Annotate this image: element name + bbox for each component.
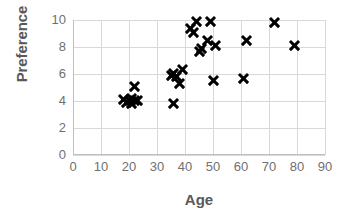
data-point-marker (187, 26, 200, 39)
gridline-horizontal (73, 47, 325, 48)
x-tick-label: 50 (198, 160, 228, 173)
x-tick-label: 90 (310, 160, 340, 173)
data-point-marker (209, 39, 222, 52)
gridline-horizontal (73, 155, 325, 156)
x-tick-label: 10 (86, 160, 116, 173)
data-point-marker (268, 16, 281, 29)
data-point-marker (173, 77, 186, 90)
data-point-marker (240, 34, 253, 47)
data-point-marker (167, 97, 180, 110)
gridline-horizontal (73, 101, 325, 102)
data-point-marker (201, 34, 214, 47)
data-point-marker (125, 92, 138, 105)
x-axis-title: Age (73, 191, 325, 208)
gridline-vertical (129, 20, 130, 155)
gridline-vertical (101, 20, 102, 155)
x-tick-label: 40 (170, 160, 200, 173)
gridline-vertical (213, 20, 214, 155)
x-tick-label: 80 (282, 160, 312, 173)
data-point-marker (165, 69, 178, 82)
x-tick-label: 0 (58, 160, 88, 173)
data-point-marker (288, 39, 301, 52)
y-tick-label: 6 (36, 67, 66, 80)
y-axis-title: Preference (10, 0, 32, 109)
data-point-marker (120, 96, 133, 109)
gridline-vertical (185, 20, 186, 155)
gridline-vertical (269, 20, 270, 155)
y-axis-line (73, 20, 74, 155)
x-tick-label: 30 (142, 160, 172, 173)
x-axis-line (73, 154, 325, 155)
gridline-vertical (325, 20, 326, 155)
gridline-vertical (241, 20, 242, 155)
data-point-marker (190, 15, 203, 28)
data-point-marker (117, 93, 130, 106)
x-tick-label: 60 (226, 160, 256, 173)
x-tick-label: 20 (114, 160, 144, 173)
gridline-vertical (297, 20, 298, 155)
data-point-marker (125, 97, 138, 110)
plot-area (73, 20, 325, 155)
gridline-horizontal (73, 74, 325, 75)
data-point-marker (128, 80, 141, 93)
scatter-chart: Preference 0246810 0102030405060708090 A… (0, 0, 350, 221)
data-point-marker (170, 70, 183, 83)
data-point-marker (184, 22, 197, 35)
y-tick-label: 4 (36, 94, 66, 107)
gridline-horizontal (73, 20, 325, 21)
gridline-horizontal (73, 128, 325, 129)
gridline-vertical (157, 20, 158, 155)
y-tick-label: 8 (36, 40, 66, 53)
data-point-marker (195, 42, 208, 55)
y-tick-label: 10 (36, 13, 66, 26)
x-tick-label: 70 (254, 160, 284, 173)
data-point-marker (204, 15, 217, 28)
y-tick-label: 2 (36, 121, 66, 134)
